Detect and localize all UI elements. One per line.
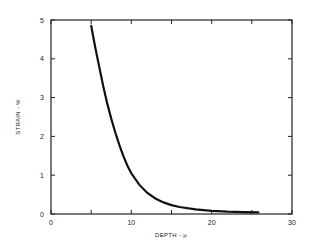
y-tick-label: 5 (40, 17, 44, 24)
x-axis-ticks: 0102030 (49, 20, 296, 226)
x-axis-label: DEPTH - μ (155, 232, 187, 238)
x-tick-label: 20 (208, 219, 216, 226)
x-tick-label: 0 (49, 219, 53, 226)
y-axis-ticks: 012345 (40, 17, 292, 218)
y-tick-label: 2 (40, 133, 44, 140)
data-curve (91, 26, 258, 213)
plot-frame (51, 20, 292, 214)
strain-depth-chart: 0102030 012345 DEPTH - μ STRAIN - % (0, 0, 312, 252)
x-tick-label: 30 (288, 219, 296, 226)
y-tick-label: 0 (40, 211, 44, 218)
y-tick-label: 1 (40, 172, 44, 179)
y-axis-label: STRAIN - % (15, 99, 21, 135)
y-tick-label: 4 (40, 55, 44, 62)
x-tick-label: 10 (127, 219, 135, 226)
y-tick-label: 3 (40, 94, 44, 101)
